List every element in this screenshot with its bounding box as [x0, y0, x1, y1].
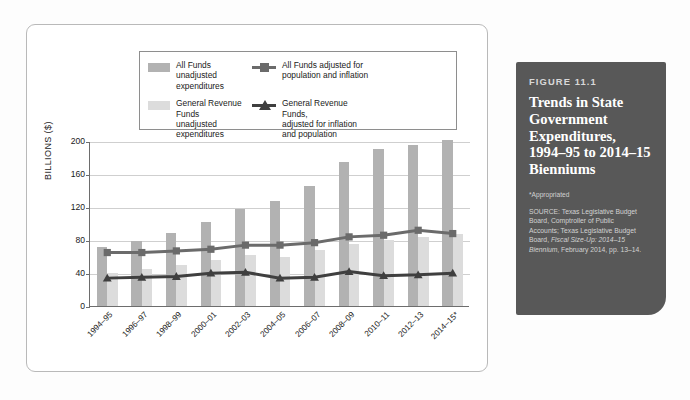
- legend-label-all-funds-adjusted: All Funds adjusted for population and in…: [282, 60, 368, 81]
- legend-label-all-funds-unadjusted: All Funds unadjusted expenditures: [176, 60, 248, 91]
- data-point-marker-square: [380, 232, 387, 239]
- y-tick-label: 160: [45, 169, 85, 179]
- legend-swatch-general-revenue-bar: [148, 101, 170, 110]
- source-line-5-italic: Biennium: [529, 246, 557, 253]
- data-point-marker-square: [276, 242, 283, 249]
- legend-marker-square-line: [252, 62, 276, 73]
- legend-text-line2: expenditures: [176, 81, 224, 91]
- y-tick-label: 40: [45, 268, 85, 278]
- data-point-marker-square: [138, 249, 145, 256]
- figure-footnote: *Appropriated: [529, 191, 654, 198]
- chart-card: All Funds unadjusted expenditures All Fu…: [26, 24, 488, 372]
- source-line-2: Board, Comptroller of Public: [529, 217, 614, 224]
- data-point-marker-square: [415, 227, 422, 234]
- figure-number: FIGURE 11.1: [529, 76, 654, 87]
- legend-text-line1: General Revenue Funds: [176, 98, 242, 118]
- series-line-square: [107, 230, 452, 252]
- y-tick-label: 80: [45, 235, 85, 245]
- source-line-1: SOURCE: Texas Legislative Budget: [529, 208, 637, 215]
- figure-callout-box: FIGURE 11.1 Trends in State Government E…: [516, 62, 666, 315]
- data-point-marker-square: [449, 230, 456, 237]
- legend-text-line1: General Revenue Funds,: [282, 98, 348, 118]
- figure-title: Trends in State Government Expenditures,…: [529, 94, 654, 178]
- source-line-4-italic: Fiscal Size-Up: 2014–15: [551, 236, 625, 243]
- y-tick-label: 0: [45, 301, 85, 311]
- legend-item-all-funds-adjusted: All Funds adjusted for population and in…: [252, 60, 370, 91]
- legend-text-line2: population and inflation: [282, 70, 368, 80]
- legend-text-line2: unadjusted expenditures: [176, 119, 224, 139]
- lines-layer: [90, 142, 470, 307]
- legend-item-gr-unadjusted: General Revenue Funds unadjusted expendi…: [148, 98, 248, 140]
- legend-item-all-funds-unadjusted: All Funds unadjusted expenditures: [148, 60, 248, 91]
- legend-label-gr-adjusted: General Revenue Funds, adjusted for infl…: [282, 98, 370, 140]
- source-line-5-post: , February 2014, pp. 13–14.: [557, 246, 641, 253]
- data-point-marker-square: [173, 247, 180, 254]
- page-canvas: All Funds unadjusted expenditures All Fu…: [0, 0, 690, 400]
- chart-legend: All Funds unadjusted expenditures All Fu…: [139, 51, 457, 130]
- legend-label-gr-unadjusted: General Revenue Funds unadjusted expendi…: [176, 98, 248, 140]
- data-point-marker-square: [345, 233, 352, 240]
- legend-text-line1: All Funds unadjusted: [176, 60, 217, 80]
- plot-canvas: 04080120160200: [89, 142, 469, 307]
- y-tick-label: 120: [45, 202, 85, 212]
- legend-text-line3: and population: [282, 129, 337, 139]
- x-axis-ticks: 1994–951996–971998–992000–012002–032004–…: [89, 308, 469, 368]
- legend-swatch-all-funds-bar: [148, 63, 170, 72]
- source-line-4-pre: Board,: [529, 236, 551, 243]
- source-line-3: Accounts; Texas Legislative Budget: [529, 227, 636, 234]
- data-point-marker-square: [207, 246, 214, 253]
- legend-text-line1: All Funds adjusted for: [282, 60, 363, 70]
- figure-source: SOURCE: Texas Legislative Budget Board, …: [529, 207, 654, 254]
- legend-item-gr-adjusted: General Revenue Funds, adjusted for infl…: [252, 98, 370, 140]
- legend-text-line2: adjusted for inflation: [282, 119, 357, 129]
- data-point-marker-square: [104, 249, 111, 256]
- legend-marker-triangle-line: [252, 100, 276, 111]
- data-point-marker-square: [311, 239, 318, 246]
- plot-area: BILLIONS ($) 04080120160200 1994–951996–…: [89, 142, 469, 307]
- y-tick-label: 200: [45, 136, 85, 146]
- data-point-marker-square: [242, 242, 249, 249]
